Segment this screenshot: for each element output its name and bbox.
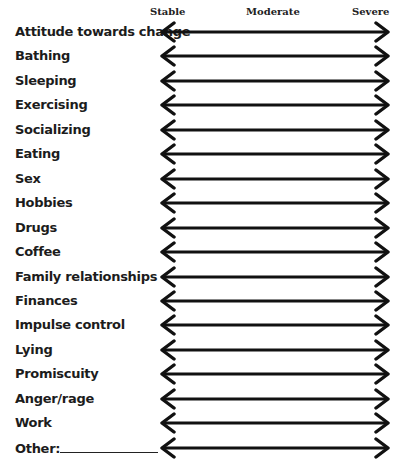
double-headed-arrow-icon <box>158 168 392 190</box>
double-headed-arrow-icon <box>158 388 392 410</box>
label-text: Bathing <box>15 48 70 63</box>
rating-row-label: Eating <box>15 146 60 161</box>
severity-scale-arrow[interactable] <box>158 70 392 92</box>
severity-scale-arrow[interactable] <box>158 21 392 43</box>
rating-row: Impulse control <box>0 314 400 338</box>
scale-label-stable: Stable <box>150 6 185 17</box>
label-text: Finances <box>15 293 77 308</box>
scale-label-severe: Severe <box>352 6 389 17</box>
severity-scale-arrow[interactable] <box>158 241 392 263</box>
label-text: Anger/rage <box>15 391 94 406</box>
double-headed-arrow-icon <box>158 217 392 239</box>
label-text: Hobbies <box>15 195 72 210</box>
rating-row-label: Bathing <box>15 48 70 63</box>
label-text: Coffee <box>15 244 61 259</box>
rating-row-label: Sex <box>15 171 41 186</box>
double-headed-arrow-icon <box>158 94 392 116</box>
double-headed-arrow-icon <box>158 314 392 336</box>
label-text: Promiscuity <box>15 366 98 381</box>
double-headed-arrow-icon <box>158 363 392 385</box>
rating-row: Promiscuity <box>0 363 400 387</box>
rating-row: Hobbies <box>0 192 400 216</box>
rating-row-label: Family relationships <box>15 269 157 284</box>
double-headed-arrow-icon <box>158 241 392 263</box>
severity-scale-arrow[interactable] <box>158 192 392 214</box>
double-headed-arrow-icon <box>158 21 392 43</box>
severity-scale-arrow[interactable] <box>158 290 392 312</box>
rating-row-label: Impulse control <box>15 317 125 332</box>
double-headed-arrow-icon <box>158 70 392 92</box>
rating-row: Sex <box>0 168 400 192</box>
double-headed-arrow-icon <box>158 266 392 288</box>
severity-scale-arrow[interactable] <box>158 45 392 67</box>
rating-row: Work <box>0 412 400 436</box>
rating-row-label: Coffee <box>15 244 61 259</box>
rating-row-label: Promiscuity <box>15 366 98 381</box>
double-headed-arrow-icon <box>158 143 392 165</box>
rating-row-label: Socializing <box>15 122 90 137</box>
double-headed-arrow-icon <box>158 437 392 459</box>
label-text: Lying <box>15 342 52 357</box>
label-text: Work <box>15 415 52 430</box>
label-text: Sex <box>15 171 41 186</box>
double-headed-arrow-icon <box>158 339 392 361</box>
severity-scale-arrow[interactable] <box>158 388 392 410</box>
rating-row: Exercising <box>0 94 400 118</box>
severity-scale-arrow[interactable] <box>158 217 392 239</box>
label-text: Socializing <box>15 122 90 137</box>
rating-row: Family relationships <box>0 266 400 290</box>
severity-scale-arrow[interactable] <box>158 94 392 116</box>
severity-scale-arrow[interactable] <box>158 314 392 336</box>
label-text: Family relationships <box>15 269 157 284</box>
label-text: Sleeping <box>15 73 76 88</box>
rating-row-label: Sleeping <box>15 73 76 88</box>
rating-row: Attitude towards change <box>0 21 400 45</box>
severity-scale-arrow[interactable] <box>158 412 392 434</box>
severity-scale-arrow[interactable] <box>158 363 392 385</box>
rating-row: Other: <box>0 437 400 461</box>
severity-scale-arrow[interactable] <box>158 168 392 190</box>
other-blank-line[interactable] <box>60 440 158 453</box>
rating-row-label: Drugs <box>15 220 57 235</box>
rating-row: Bathing <box>0 45 400 69</box>
rating-row-label: Hobbies <box>15 195 72 210</box>
label-text: Other: <box>15 441 60 456</box>
double-headed-arrow-icon <box>158 412 392 434</box>
label-text: Eating <box>15 146 60 161</box>
severity-scale-arrow[interactable] <box>158 437 392 459</box>
rating-row: Lying <box>0 339 400 363</box>
rating-row-label: Other: <box>15 440 158 456</box>
rating-row: Socializing <box>0 119 400 143</box>
rating-row: Eating <box>0 143 400 167</box>
severity-scale-arrow[interactable] <box>158 339 392 361</box>
severity-scale-arrow[interactable] <box>158 266 392 288</box>
scale-label-moderate: Moderate <box>246 6 300 17</box>
rating-row: Drugs <box>0 217 400 241</box>
rating-row-label: Finances <box>15 293 77 308</box>
double-headed-arrow-icon <box>158 290 392 312</box>
rating-row: Anger/rage <box>0 388 400 412</box>
double-headed-arrow-icon <box>158 45 392 67</box>
rating-row: Sleeping <box>0 70 400 94</box>
rating-row-label: Lying <box>15 342 52 357</box>
label-text: Drugs <box>15 220 57 235</box>
label-text: Exercising <box>15 97 87 112</box>
double-headed-arrow-icon <box>158 119 392 141</box>
double-headed-arrow-icon <box>158 192 392 214</box>
rating-row-label: Work <box>15 415 52 430</box>
rating-row: Finances <box>0 290 400 314</box>
severity-scale-arrow[interactable] <box>158 119 392 141</box>
rating-row-label: Anger/rage <box>15 391 94 406</box>
rating-row-label: Exercising <box>15 97 87 112</box>
cut-off-heading <box>17 0 77 4</box>
label-text: Impulse control <box>15 317 125 332</box>
severity-scale-arrow[interactable] <box>158 143 392 165</box>
rating-row: Coffee <box>0 241 400 265</box>
